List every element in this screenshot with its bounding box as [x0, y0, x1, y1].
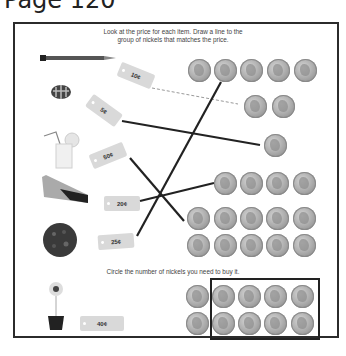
nickel-coin	[214, 207, 237, 230]
nickel-coin	[294, 59, 317, 82]
nickel-coin[interactable]	[186, 285, 209, 308]
nickel-coin	[188, 59, 211, 82]
nickel-coin	[240, 172, 263, 195]
nickel-coin	[293, 207, 316, 230]
match-line-5	[122, 121, 260, 145]
nickel-coin	[266, 172, 289, 195]
nickel-coin	[187, 234, 210, 257]
nickel-coin	[267, 59, 290, 82]
nickel-coin	[293, 172, 316, 195]
match-line-10	[152, 88, 238, 104]
nickel-coin	[244, 95, 267, 118]
nickel-coin	[293, 234, 316, 257]
nickel-coin	[214, 234, 237, 257]
nickel-coin	[240, 59, 263, 82]
nickel-coin	[264, 134, 287, 157]
nickel-coin	[266, 234, 289, 257]
match-line-50	[130, 158, 184, 221]
nickel-coin	[214, 59, 237, 82]
nickel-coin	[272, 95, 295, 118]
nickel-coin	[266, 207, 289, 230]
match-line-20	[140, 183, 214, 201]
nickel-coin	[240, 234, 263, 257]
nickel-coin	[240, 207, 263, 230]
circle-instruction: Circle the number of nickels you need to…	[0, 268, 346, 276]
nickel-coin	[214, 172, 237, 195]
nickel-coin[interactable]	[186, 312, 209, 335]
nickel-coin	[187, 207, 210, 230]
circled-nickels-box	[210, 278, 320, 340]
